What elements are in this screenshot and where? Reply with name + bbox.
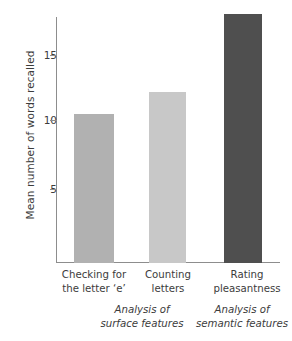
y-tick-mark-5 bbox=[50, 189, 57, 190]
y-tick-group-5: 5 bbox=[0, 184, 57, 195]
bar-counting-letters bbox=[149, 92, 186, 263]
bar-chart-figure: Mean number of words recalled 15 10 5 Ch… bbox=[0, 0, 292, 341]
y-tick-group-15: 15 bbox=[0, 50, 57, 61]
x-tick-label-rating: Rating pleasantness bbox=[204, 268, 290, 295]
bar-rating-pleasantness bbox=[224, 14, 262, 263]
y-tick-group-10: 10 bbox=[0, 115, 57, 126]
x-tick-label-checking: Checking for the letter ‘e’ bbox=[52, 268, 136, 295]
x-tick-label-counting: Counting letters bbox=[130, 268, 206, 295]
group-annotation-surface-features: Analysis of surface features bbox=[94, 303, 190, 330]
y-tick-mark-15 bbox=[50, 55, 57, 56]
y-tick-mark-10 bbox=[50, 120, 57, 121]
group-annotation-semantic-features: Analysis of semantic features bbox=[192, 303, 292, 330]
bar-checking-for-the-letter-e bbox=[74, 114, 114, 263]
